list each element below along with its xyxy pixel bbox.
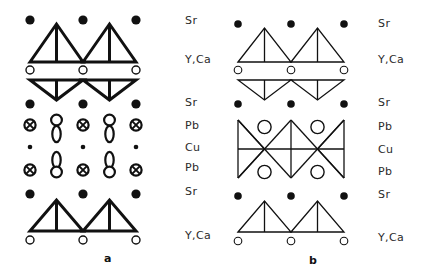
open-circle-marker <box>26 236 34 244</box>
open-circle-marker <box>26 66 34 74</box>
open-circle-marker <box>340 66 348 74</box>
crossed-circle-marker <box>130 164 141 175</box>
panel-a-label-sr-top: Sr <box>185 14 197 27</box>
panel-a-label-sr-mid: Sr <box>185 96 197 109</box>
filled-circle-marker <box>287 192 295 200</box>
crossed-circle-marker <box>77 164 88 175</box>
panel-b-label-pb-upper: Pb <box>378 120 392 133</box>
panel-b-caption: b <box>309 254 317 267</box>
crossed-circle-marker <box>130 119 141 130</box>
panel-b-label-yca-bottom: Y,Ca <box>378 231 404 244</box>
panel-b-label-sr-mid: Sr <box>378 96 390 109</box>
bowling-pin-marker <box>51 115 62 143</box>
panel-b-label-sr-bottom: Sr <box>378 188 390 201</box>
filled-circle-marker <box>340 100 348 108</box>
panel-b-label-sr-top: Sr <box>378 17 390 30</box>
panel-a-caption: a <box>104 252 111 265</box>
filled-circle-marker <box>234 100 242 108</box>
large-open-circle-marker <box>311 120 324 133</box>
filled-circle-marker <box>287 20 295 28</box>
open-circle-marker <box>79 66 87 74</box>
open-circle-marker <box>287 237 295 245</box>
filled-circle-marker <box>78 15 87 24</box>
figure-background <box>0 0 432 276</box>
small-dot-marker <box>81 145 86 150</box>
filled-circle-marker <box>25 15 34 24</box>
filled-circle-marker <box>131 99 140 108</box>
small-dot-marker <box>134 145 139 150</box>
panel-b-label-yca-top: Y,Ca <box>378 53 404 66</box>
filled-circle-marker <box>131 189 140 198</box>
filled-circle-marker <box>234 20 242 28</box>
filled-circle-marker <box>287 100 295 108</box>
open-circle-marker <box>234 66 242 74</box>
panel-a-label-yca-bottom: Y,Ca <box>185 229 211 242</box>
bowling-pin-inverted-marker <box>51 152 62 178</box>
open-circle-marker <box>132 66 140 74</box>
open-circle-marker <box>287 66 295 74</box>
filled-circle-marker <box>340 192 348 200</box>
large-open-circle-marker <box>258 165 271 178</box>
crossed-circle-marker <box>24 164 35 175</box>
large-open-circle-marker <box>311 165 324 178</box>
large-open-circle-marker <box>258 120 271 133</box>
filled-circle-marker <box>131 15 140 24</box>
open-circle-marker <box>79 236 87 244</box>
panel-b-label-pb-lower: Pb <box>378 165 392 178</box>
panel-a-label-pb-upper: Pb <box>185 119 199 132</box>
filled-circle-marker <box>234 192 242 200</box>
crystal-structure-figure <box>0 0 432 276</box>
crossed-circle-marker <box>77 119 88 130</box>
filled-circle-marker <box>340 20 348 28</box>
crossed-circle-marker <box>24 119 35 130</box>
open-circle-marker <box>234 237 242 245</box>
panel-a-label-yca-top: Y,Ca <box>185 53 211 66</box>
open-circle-marker <box>340 237 348 245</box>
filled-circle-marker <box>25 99 34 108</box>
small-dot-marker <box>28 145 33 150</box>
panel-a-label-cu: Cu <box>185 141 200 154</box>
panel-b-label-cu: Cu <box>378 143 393 156</box>
filled-circle-marker <box>78 189 87 198</box>
filled-circle-marker <box>25 189 34 198</box>
filled-circle-marker <box>78 99 87 108</box>
panel-a-label-pb-lower: Pb <box>185 161 199 174</box>
bowling-pin-inverted-marker <box>104 152 115 178</box>
panel-a-label-sr-bottom: Sr <box>185 185 197 198</box>
open-circle-marker <box>132 236 140 244</box>
bowling-pin-marker <box>104 115 115 143</box>
